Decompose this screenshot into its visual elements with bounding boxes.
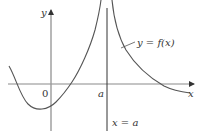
asymptote-label: x = a bbox=[112, 117, 138, 128]
curve-label: y = f(x) bbox=[136, 37, 175, 48]
a-tick-label: a bbox=[98, 88, 104, 99]
curve-left-branch bbox=[9, 0, 101, 109]
y-axis-label: y bbox=[40, 7, 47, 18]
origin-label: 0 bbox=[42, 88, 48, 99]
x-axis-label: x bbox=[188, 88, 194, 99]
graph-figure: y x 0 a y = f(x) x = a bbox=[0, 0, 200, 139]
